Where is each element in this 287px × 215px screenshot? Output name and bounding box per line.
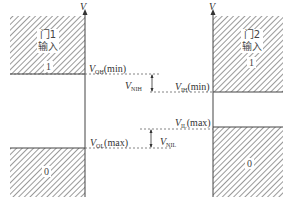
vih-min-label: VIH(min) [175,81,210,96]
voh-min-label: VOH(min) [89,63,126,78]
vnih-label: VNIH [125,80,142,95]
gate1-title: 门1 输入 [37,29,59,53]
vil-max-label: VIL(max) [175,117,211,132]
gate2-high-value: 1 [247,57,256,68]
gate1-high-value: 1 [44,61,53,72]
gate2-axis-label: V [209,1,215,12]
gate2-title: 门2 输入 [241,29,263,53]
vol-max-label: VOL(max) [90,137,128,152]
vnil-label: VNIL [160,136,176,151]
gate2-high-region [213,16,283,92]
gate1-low-value: 0 [42,166,51,177]
gate1-axis-label: V [80,1,86,12]
noise-margin-diagram: V V 门1 输入 1 0 门2 输入 1 0 VOH(min) VNIH VI… [0,0,287,215]
gate2-low-value: 0 [245,158,254,169]
